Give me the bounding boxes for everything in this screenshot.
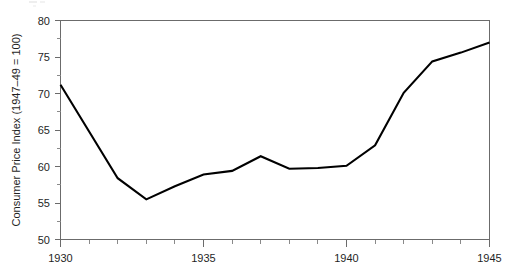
cpi-series-line — [61, 42, 490, 199]
y-tick-label-75: 75 — [38, 51, 50, 63]
x-tick-label-1935: 1935 — [191, 252, 215, 264]
x-tick-label-1945: 1945 — [477, 252, 501, 264]
cpi-line-chart: 50 55 60 65 70 75 80 Consumer Price Inde… — [0, 0, 507, 278]
y-axis-tick-labels: 50 55 60 65 70 75 80 — [38, 15, 50, 246]
y-axis-major-ticks — [55, 21, 61, 240]
y-tick-label-65: 65 — [38, 124, 50, 136]
y-axis-title: Consumer Price Index (1947–49 = 100) — [10, 34, 22, 227]
x-axis-major-ticks — [61, 240, 490, 247]
chart-canvas: 50 55 60 65 70 75 80 Consumer Price Inde… — [0, 0, 507, 278]
x-axis-minor-ticks — [89, 240, 461, 244]
y-tick-label-70: 70 — [38, 88, 50, 100]
y-tick-label-55: 55 — [38, 197, 50, 209]
y-tick-label-50: 50 — [38, 234, 50, 246]
scan-artifact — [29, 1, 45, 7]
x-tick-label-1930: 1930 — [48, 252, 72, 264]
y-tick-label-60: 60 — [38, 161, 50, 173]
x-axis-tick-labels: 1930 1935 1940 1945 — [48, 252, 501, 264]
axis-lines — [61, 21, 490, 240]
y-tick-label-80: 80 — [38, 15, 50, 27]
x-tick-label-1940: 1940 — [334, 252, 358, 264]
